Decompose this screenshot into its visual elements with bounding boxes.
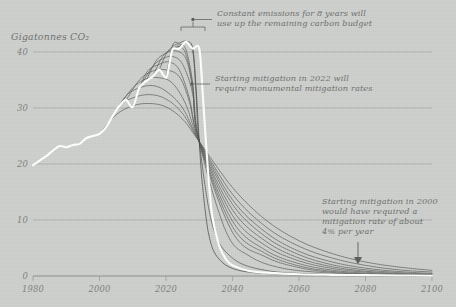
chart-figure: 40 30 20 10 0 1980 2000 2020 2040 2060 2… [0,0,456,307]
y-tick-label-20: 20 [16,159,29,169]
y-axis-title: Gigatonnes CO₂ [11,31,89,42]
x-tick-label-2080: 2080 [353,284,377,294]
y-tick-label-10: 10 [17,215,29,225]
annotation-line-2: require monumental mitigation rates [215,83,373,93]
x-tick-label-2000: 2000 [87,284,111,294]
annotation-line-1: Constant emissions for 8 years will [217,8,366,18]
annotation-line-2: use up the remaining carbon budget [217,18,373,28]
annotation-mitigation-2000: Starting mitigation in 2000 would have r… [321,196,438,264]
x-tick-label-2060: 2060 [287,284,311,294]
annotation-line-4: 4% per year [321,226,375,236]
leader-dot [190,82,193,85]
y-tick-label-0: 0 [22,271,28,281]
scenario-pathway-line [126,69,432,274]
annotation-mitigation-2022: Starting mitigation in 2022 will require… [190,73,372,93]
annotation-constant-emissions: Constant emissions for 8 years will use … [181,8,373,31]
annotation-line-3: mitigation rate of about [322,216,424,226]
x-tick-label-1980: 1980 [22,284,45,294]
bracket-marker [181,22,205,31]
annotation-line-2: would have required a [322,206,417,216]
x-tick-label-2040: 2040 [220,284,244,294]
x-tick-label-2020: 2020 [154,284,178,294]
x-tick-marks [33,276,432,281]
y-tick-label-40: 40 [16,47,29,57]
leader-dot [191,18,194,21]
annotation-line-1: Starting mitigation in 2000 [322,196,438,206]
x-tick-label-2100: 2100 [420,284,444,294]
annotation-line-1: Starting mitigation in 2022 will [215,73,349,83]
scenario-pathway-line [106,95,432,273]
y-tick-label-30: 30 [17,103,29,113]
emissions-pathways-chart: 40 30 20 10 0 1980 2000 2020 2040 2060 2… [0,0,456,307]
